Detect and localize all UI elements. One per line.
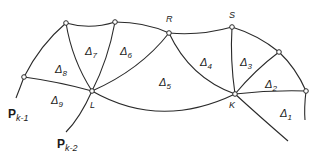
edge-R-L [92,33,169,91]
triangle-label-7: Δ7 [84,45,97,60]
vertex-U [304,89,309,94]
edge-S-K [231,27,235,94]
triangle-label-3: Δ3 [239,56,252,71]
edge-A-L [24,77,92,91]
vertex-L [90,89,95,94]
triangle-label-6: Δ6 [119,45,132,60]
edge-K-U [235,91,306,94]
edge-S-T [232,27,279,52]
label-L: L [90,100,95,110]
edge-U-down [305,91,306,120]
label-p-k-minus-1: Pk-1 [8,107,29,123]
vertex-R [167,31,172,36]
triangle-label-8: Δ8 [54,63,67,78]
vertex-S [230,25,235,30]
edge-T-U [279,52,306,91]
edge-C-R [115,22,169,33]
label-p-k-minus-2: Pk-2 [57,137,78,153]
edge-L-K [92,91,235,111]
edge-R-S [169,27,232,34]
triangle-label-1: Δ1 [279,107,292,122]
diagram-canvas: R S L K Pk-1 Pk-2 Δ1 Δ2 Δ3 Δ4 Δ5 Δ6 Δ7 Δ… [0,0,315,159]
vertex-A [22,75,27,80]
triangulation-diagram: R S L K Pk-1 Pk-2 Δ1 Δ2 Δ3 Δ4 Δ5 Δ6 Δ7 Δ… [0,0,315,159]
triangle-label-4: Δ4 [199,56,212,71]
triangle-label-9: Δ9 [50,94,63,109]
triangle-label-5: Δ5 [158,76,171,91]
vertex-T [277,50,282,55]
vertex-B [64,21,69,26]
edge-A-Pk1 [16,77,24,98]
label-R: R [166,14,173,24]
vertex-C [113,20,118,25]
edge-B-C [66,22,115,26]
label-K: K [229,100,236,110]
edge-B-L [66,23,92,91]
vertex-K [233,92,238,97]
edge-L-Pk2 [66,91,92,132]
label-S: S [229,10,235,20]
